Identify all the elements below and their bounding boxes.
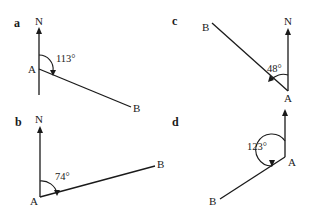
point-a-label-d: A <box>288 156 296 168</box>
panel-label-b: b <box>15 115 22 129</box>
point-a-label-a: A <box>28 63 36 75</box>
point-b-label-d: B <box>209 195 216 207</box>
point-b-label-b: B <box>157 158 164 170</box>
north-arrowhead-c-icon <box>285 28 291 35</box>
diagram-c: c N 48° A B <box>172 14 292 104</box>
panel-label-c: c <box>172 14 178 28</box>
north-label-a: N <box>35 15 43 27</box>
bearing-label-a: 113° <box>56 53 76 64</box>
bearings-figure: a N 113° A B b N 74° A B c N 48° A B <box>0 0 313 218</box>
point-a-label-c: A <box>284 92 292 104</box>
bearing-line-d <box>220 157 285 199</box>
diagram-d: d 123° A B <box>172 109 296 207</box>
panel-label-a: a <box>14 16 20 30</box>
diagram-a: a N 113° A B <box>14 15 140 114</box>
angle-arc-c <box>271 74 288 80</box>
north-arrowhead-b-icon <box>37 126 43 133</box>
bearing-label-c: 48° <box>267 63 282 74</box>
bearing-label-b: 74° <box>55 171 70 182</box>
point-b-label-c: B <box>202 21 209 33</box>
point-a-label-b: A <box>30 195 38 207</box>
north-arrowhead-a-icon <box>36 27 42 34</box>
panel-label-d: d <box>172 115 179 129</box>
north-arrowhead-d-icon <box>282 109 288 116</box>
point-b-label-a: B <box>133 102 140 114</box>
angle-arc-a <box>39 55 53 71</box>
angle-arc-b <box>40 181 57 193</box>
north-label-c: N <box>284 15 292 27</box>
diagram-b: b N 74° A B <box>15 113 164 207</box>
bearing-line-c <box>212 23 288 91</box>
north-label-b: N <box>35 113 43 125</box>
bearing-label-d: 123° <box>247 141 267 152</box>
